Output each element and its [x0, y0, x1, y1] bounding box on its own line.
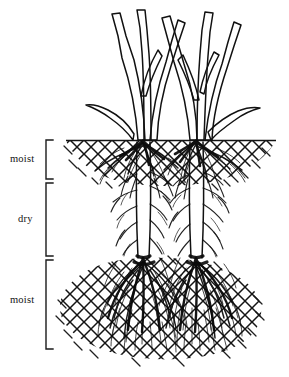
bracket-middle-dry: [46, 183, 53, 256]
leaf-blade-2: [137, 10, 151, 140]
bracket-upper-moist: [46, 140, 53, 179]
zone-label-upper-moist: moist: [10, 153, 34, 164]
root-distribution-figure: moist dry moist: [0, 0, 289, 377]
leaf-blade-8: [205, 22, 241, 140]
grass-shoots: [86, 10, 260, 140]
upper-moist-soil-hatching: [60, 138, 285, 198]
root-diagram-svg: moist dry moist: [0, 0, 289, 377]
zone-label-lower-moist: moist: [10, 294, 34, 305]
zone-label-middle-dry: dry: [18, 213, 33, 224]
bracket-lower-moist: [46, 260, 53, 349]
leaf-blade-4: [86, 105, 134, 140]
leaf-blade-11: [200, 52, 219, 94]
